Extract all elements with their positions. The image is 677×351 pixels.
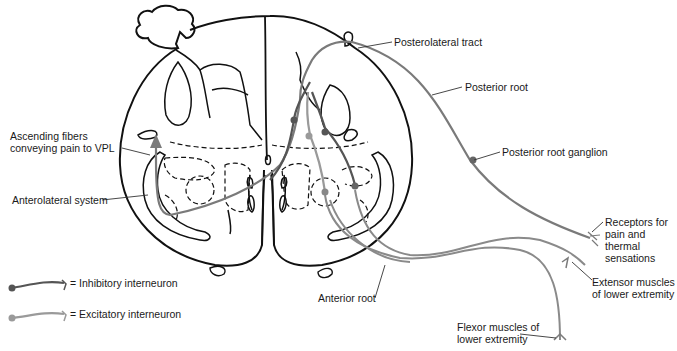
label-anterior-root: Anterior root bbox=[318, 292, 376, 304]
label-anterolateral-system: Anterolateral system bbox=[12, 194, 108, 206]
motor-efferents bbox=[325, 190, 585, 340]
legend-excitatory-interneuron: = Excitatory interneuron bbox=[70, 308, 181, 320]
label-flexor-muscles: Flexor muscles of lower extremity bbox=[457, 321, 539, 345]
legend-inhibitory-interneuron: = Inhibitory interneuron bbox=[70, 277, 178, 289]
extensor-ending-icon bbox=[562, 258, 568, 268]
label-posterior-root-ganglion: Posterior root ganglion bbox=[502, 146, 608, 158]
label-posterior-root: Posterior root bbox=[465, 81, 528, 93]
posterolateral-tract-tuft-left bbox=[136, 6, 194, 49]
label-ascending-fibers: Ascending fibers conveying pain to VPL bbox=[10, 130, 115, 154]
label-receptors: Receptors for pain and thermal sensation… bbox=[605, 216, 668, 264]
label-posterolateral-tract: Posterolateral tract bbox=[394, 36, 482, 48]
receptor-ending-icon bbox=[588, 232, 600, 246]
legend-glyphs bbox=[9, 280, 67, 322]
label-extensor-muscles: Extensor muscles of lower extremity bbox=[592, 276, 675, 300]
ascending-arrow-icon bbox=[150, 134, 162, 148]
